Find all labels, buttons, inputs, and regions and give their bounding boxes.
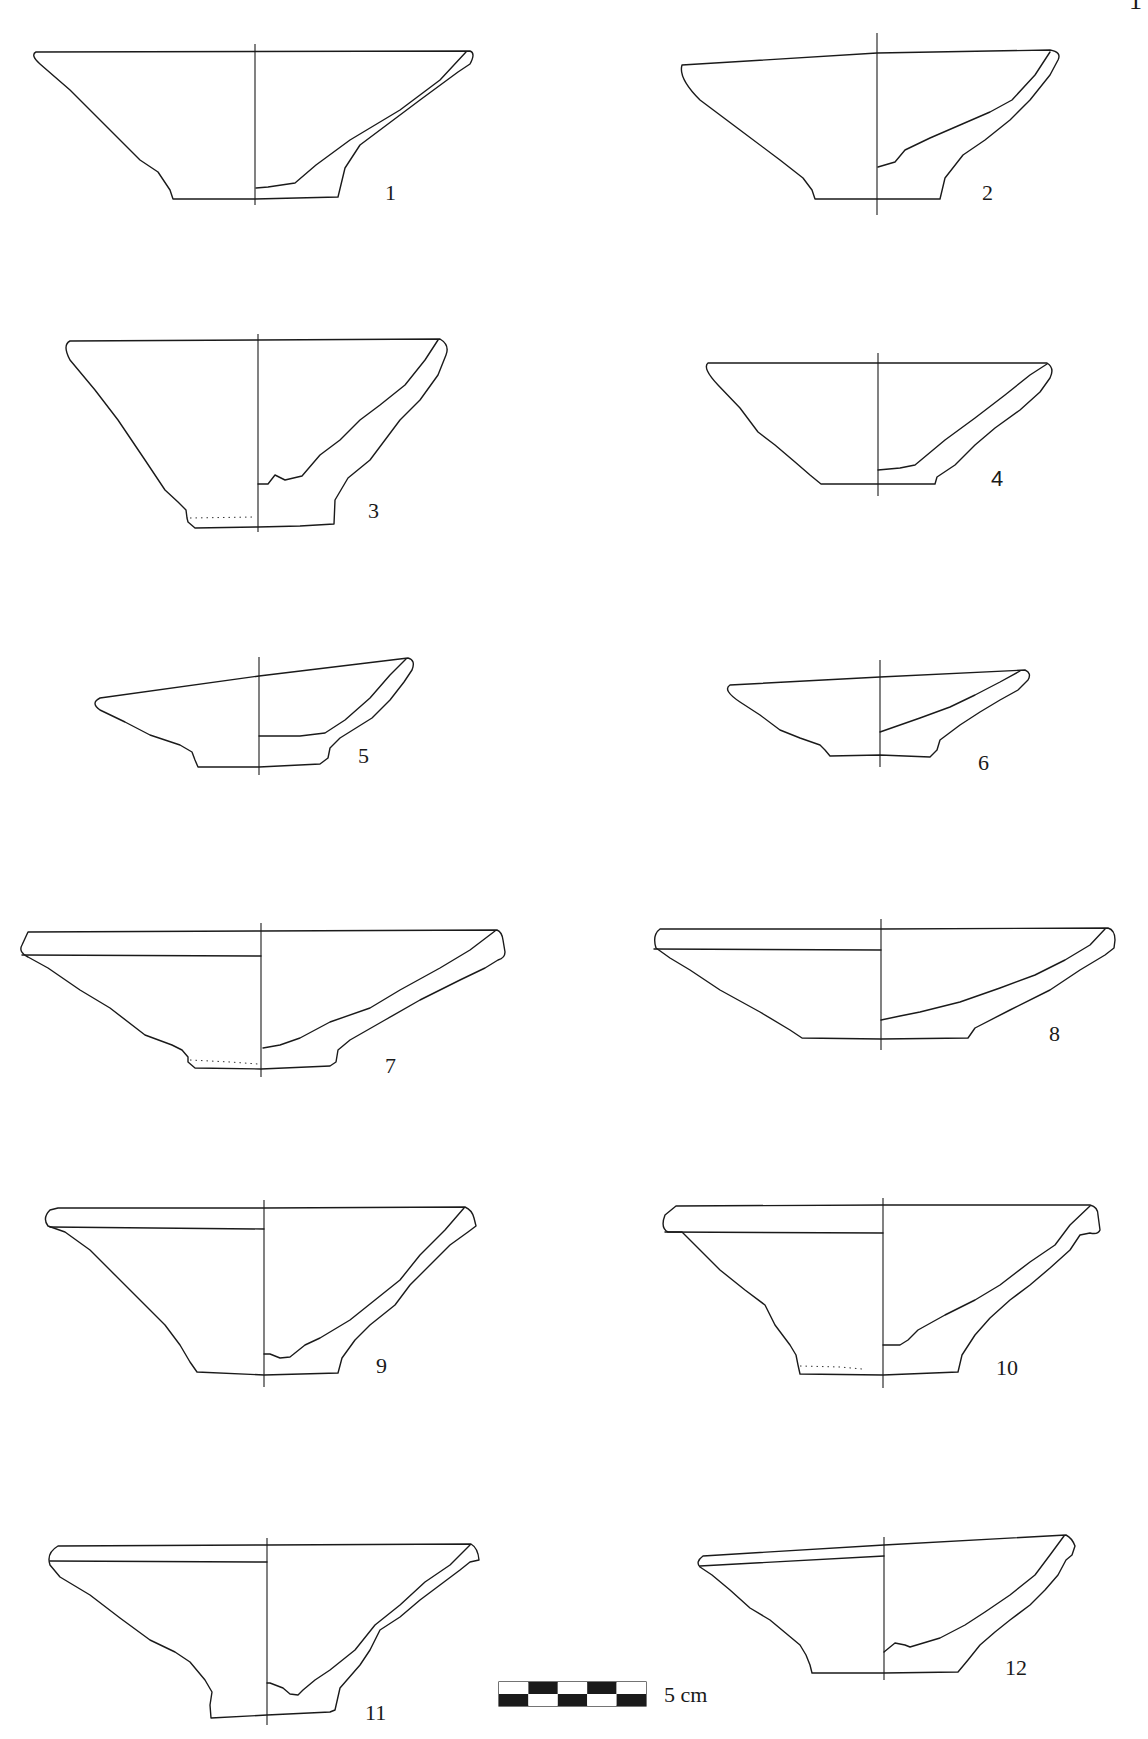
bowl-7-interior (263, 931, 495, 1048)
scale-bar: 5 cm (499, 1682, 707, 1707)
bowl-10-rim-band (665, 1232, 883, 1233)
figure-label-7: 7 (385, 1053, 396, 1078)
figure-label-8: 8 (1049, 1021, 1060, 1046)
bowl-10-exterior (663, 1205, 1100, 1375)
bowl-4-interior (878, 364, 1047, 470)
scale-bar-segment-2-top (528, 1682, 557, 1694)
bowl-1-interior (256, 52, 466, 188)
figure-label-11: 11 (365, 1700, 386, 1725)
pottery-plate: 1 2 3 4 5 6 (0, 0, 1148, 1739)
bowl-profile-5: 5 (95, 657, 413, 775)
bowl-12-exterior (698, 1535, 1075, 1673)
bowl-2-exterior (681, 50, 1059, 199)
bowl-3-exterior (66, 339, 447, 528)
bowl-3-restoration-line (190, 517, 255, 518)
bowl-profile-8: 8 (654, 919, 1115, 1050)
figure-label-12: 12 (1005, 1655, 1027, 1680)
bowl-7-rim-band (22, 955, 261, 956)
figure-label-5: 5 (358, 743, 369, 768)
figure-label-3: 3 (368, 498, 379, 523)
bowl-11-rim-band (50, 1561, 267, 1562)
bowl-profile-10: 10 (663, 1198, 1100, 1388)
bowl-8-rim-band (654, 949, 881, 950)
bowl-12-interior (884, 1536, 1064, 1652)
scale-bar-segment-3-bottom (558, 1694, 587, 1706)
bowl-8-interior (881, 929, 1105, 1020)
scale-bar-segment-3-top (558, 1682, 587, 1694)
bowl-profile-2: 2 (681, 33, 1059, 215)
bowl-profile-1: 1 (34, 44, 473, 205)
bowl-11-interior (267, 1545, 470, 1695)
figure-label-1: 1 (385, 180, 396, 205)
scale-bar-segment-4-bottom (587, 1694, 616, 1706)
bowl-profile-3: 3 (66, 334, 447, 532)
scale-bar-segment-5-top (617, 1682, 646, 1694)
figure-label-2: 2 (982, 180, 993, 205)
bowl-9-interior (264, 1208, 464, 1358)
bowl-7-foot-line (190, 1060, 258, 1064)
bowl-profile-4: 4 (706, 353, 1052, 496)
bowl-5-interior (259, 659, 406, 736)
scale-bar-segment-2-bottom (528, 1694, 557, 1706)
bowl-10-foot-line (800, 1366, 862, 1369)
figure-label-10: 10 (996, 1355, 1018, 1380)
bowl-profile-7: 7 (21, 923, 505, 1078)
bowl-profile-12: 12 (698, 1535, 1075, 1680)
figure-label-4: 4 (991, 466, 1003, 491)
bowl-9-exterior (45, 1207, 476, 1375)
bowl-12-rim-band (700, 1556, 884, 1566)
figure-label-6: 6 (978, 750, 989, 775)
figure-label-9: 9 (376, 1353, 387, 1378)
bowl-8-exterior (655, 928, 1115, 1039)
bowl-3-interior (258, 340, 438, 484)
scale-bar-label: 5 cm (664, 1682, 707, 1707)
bowl-profile-9: 9 (45, 1200, 476, 1387)
bowl-6-exterior (728, 670, 1030, 757)
bowl-9-rim-band (50, 1227, 264, 1229)
scale-bar-segment-1-bottom (499, 1694, 528, 1706)
scale-bar-segment-5-bottom (617, 1694, 646, 1706)
bowl-2-interior (878, 52, 1050, 167)
bowl-10-interior (883, 1206, 1090, 1345)
bowl-profile-6: 6 (728, 660, 1030, 775)
bowl-1-exterior (34, 51, 473, 199)
bowl-profile-11: 11 (49, 1538, 479, 1725)
bowl-11-exterior (49, 1544, 479, 1718)
scale-bar-segment-1-top (499, 1682, 528, 1694)
bowl-6-interior (880, 671, 1020, 732)
scale-bar-segment-4-top (587, 1682, 616, 1694)
